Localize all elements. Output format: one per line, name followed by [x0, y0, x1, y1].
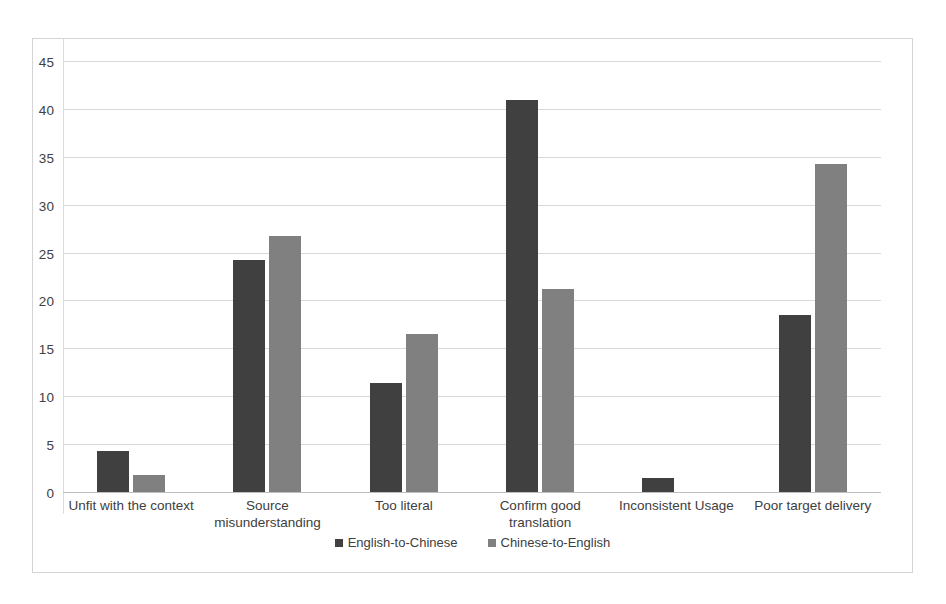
y-tick-label-35: 35	[39, 150, 54, 165]
bar-group	[336, 61, 472, 492]
y-tick-label-40: 40	[39, 102, 54, 117]
bar[interactable]	[506, 100, 538, 492]
legend-swatch-icon	[335, 539, 343, 547]
x-axis-label: Inconsistent Usage	[608, 497, 744, 531]
x-axis-label: Too literal	[336, 497, 472, 531]
bar[interactable]	[370, 383, 402, 492]
y-tick-label-10: 10	[39, 390, 54, 405]
chart-legend: English-to-ChineseChinese-to-English	[33, 535, 912, 550]
y-tick-label-15: 15	[39, 342, 54, 357]
x-axis-label: Confirm good translation	[472, 497, 608, 531]
x-axis-label: Source misunderstanding	[199, 497, 335, 531]
x-axis-label: Unfit with the context	[63, 497, 199, 531]
y-tick-label-5: 5	[46, 438, 54, 453]
bar[interactable]	[269, 236, 301, 492]
bar-group	[63, 61, 199, 492]
gridline-0: 0	[63, 492, 881, 493]
bar-group	[472, 61, 608, 492]
bar-group	[745, 61, 881, 492]
bar[interactable]	[642, 478, 674, 492]
bar[interactable]	[815, 164, 847, 492]
y-tick-label-30: 30	[39, 198, 54, 213]
bar-group	[199, 61, 335, 492]
chart-frame: 051015202530354045 Unfit with the contex…	[32, 38, 913, 573]
bar[interactable]	[233, 260, 265, 492]
legend-swatch-icon	[488, 539, 496, 547]
legend-item[interactable]: Chinese-to-English	[488, 535, 611, 550]
legend-label: Chinese-to-English	[501, 535, 611, 550]
y-tick-label-45: 45	[39, 55, 54, 70]
x-axis-label: Poor target delivery	[745, 497, 881, 531]
x-axis-labels: Unfit with the contextSource misundersta…	[63, 497, 881, 531]
legend-label: English-to-Chinese	[348, 535, 458, 550]
y-tick-label-20: 20	[39, 294, 54, 309]
y-tick-label-25: 25	[39, 246, 54, 261]
bar[interactable]	[133, 475, 165, 492]
plot-area: 051015202530354045	[63, 61, 881, 492]
y-tick-label-0: 0	[46, 486, 54, 501]
bar[interactable]	[779, 315, 811, 492]
bar[interactable]	[542, 289, 574, 492]
bar-group	[608, 61, 744, 492]
bar-groups	[63, 61, 881, 492]
legend-item[interactable]: English-to-Chinese	[335, 535, 458, 550]
bar[interactable]	[406, 334, 438, 492]
bar[interactable]	[97, 451, 129, 492]
